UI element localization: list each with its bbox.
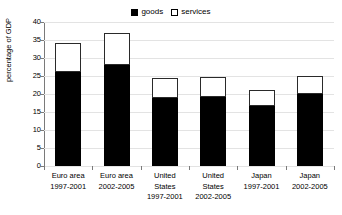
- gridline: [44, 148, 334, 149]
- bar: [297, 76, 323, 166]
- bar: [104, 33, 130, 166]
- x-axis-tick: [44, 166, 45, 170]
- gridline: [44, 130, 334, 131]
- legend-label-goods: goods: [141, 7, 163, 17]
- y-axis-tick: [40, 130, 44, 131]
- category-label-line: Euro area: [44, 171, 92, 182]
- bar-segment-goods: [104, 65, 130, 166]
- category-label-line: 1997-2001: [237, 182, 285, 193]
- x-axis-category-labels: Euro area1997-2001Euro area2002-2005Unit…: [44, 171, 335, 215]
- empty-square-icon: [171, 9, 178, 16]
- x-axis-tick: [286, 166, 287, 170]
- legend-item-services: services: [171, 7, 210, 17]
- x-axis-tick: [141, 166, 142, 170]
- x-axis-tick: [92, 166, 93, 170]
- bar: [200, 77, 226, 166]
- category-label-line: United: [141, 171, 189, 182]
- bar-segment-goods: [55, 72, 81, 166]
- y-axis-tick-label: 20: [19, 90, 41, 98]
- category-label-line: 1997-2001: [141, 192, 189, 203]
- bar-segment-goods: [152, 98, 178, 166]
- y-axis-tick-label: 15: [19, 108, 41, 116]
- chart-legend: goods services: [0, 7, 342, 17]
- category-label-line: Japan: [237, 171, 285, 182]
- bar-segment-services: [152, 78, 178, 98]
- category-label-line: 2002-2005: [189, 192, 237, 203]
- category-label-line: United: [189, 171, 237, 182]
- y-axis-tick-label: 30: [19, 54, 41, 62]
- x-axis-tick: [237, 166, 238, 170]
- plot-area: [44, 22, 334, 166]
- y-axis-tick: [40, 40, 44, 41]
- category-label-line: Japan: [286, 171, 334, 182]
- y-axis-tick: [40, 76, 44, 77]
- bar: [249, 90, 275, 166]
- y-axis-tick-label: 40: [19, 18, 41, 26]
- legend-label-services: services: [181, 7, 210, 17]
- legend-item-goods: goods: [131, 7, 163, 17]
- y-axis-tick: [40, 94, 44, 95]
- bar-segment-services: [297, 76, 323, 94]
- gridline: [44, 58, 334, 59]
- category-label: Euro area2002-2005: [92, 171, 140, 192]
- stacked-bar-chart: goods services percentage of GDP 0510152…: [0, 0, 342, 215]
- bar-segment-services: [249, 90, 275, 106]
- y-axis-tick: [40, 148, 44, 149]
- bar-segment-goods: [249, 106, 275, 166]
- category-label-line: 1997-2001: [44, 182, 92, 193]
- y-axis-tick-label: 25: [19, 72, 41, 80]
- category-label: UnitedStates2002-2005: [189, 171, 237, 203]
- bar-segment-services: [200, 77, 226, 98]
- gridline: [44, 76, 334, 77]
- bar: [152, 78, 178, 166]
- y-axis-title: percentage of GDP: [5, 0, 13, 125]
- category-label-line: Euro area: [92, 171, 140, 182]
- category-label: UnitedStates1997-2001: [141, 171, 189, 203]
- y-axis-tick: [40, 58, 44, 59]
- y-axis-tick-label: 0: [19, 162, 41, 170]
- gridline: [44, 94, 334, 95]
- bar-segment-goods: [297, 94, 323, 166]
- x-axis-tick: [334, 166, 335, 170]
- y-axis-tick-label: 10: [19, 126, 41, 134]
- gridline: [44, 112, 334, 113]
- category-label-line: 2002-2005: [286, 182, 334, 193]
- bar-segment-goods: [200, 97, 226, 166]
- filled-square-icon: [131, 9, 138, 16]
- gridline: [44, 40, 334, 41]
- category-label-line: 2002-2005: [92, 182, 140, 193]
- y-axis-tick: [40, 22, 44, 23]
- x-axis-tick: [189, 166, 190, 170]
- category-label-line: States: [189, 182, 237, 193]
- category-label: Euro area1997-2001: [44, 171, 92, 192]
- y-axis-tick: [40, 112, 44, 113]
- gridline: [44, 22, 334, 23]
- bar-segment-services: [55, 43, 81, 73]
- y-axis-tick-label: 5: [19, 144, 41, 152]
- category-label: Japan1997-2001: [237, 171, 285, 192]
- bar: [55, 43, 81, 166]
- y-axis-tick-label: 35: [19, 36, 41, 44]
- category-label: Japan2002-2005: [286, 171, 334, 192]
- category-label-line: States: [141, 182, 189, 193]
- bar-segment-services: [104, 33, 130, 65]
